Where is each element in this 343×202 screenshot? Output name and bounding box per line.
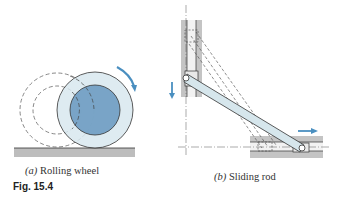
ground (14, 148, 135, 157)
caption-b-letter: (b) (214, 171, 226, 182)
caption-sliding-rod: (b) Sliding rod (214, 171, 276, 182)
sliding-rod-panel (169, 5, 330, 158)
sliding-rod (184, 74, 304, 152)
upper-pin (183, 75, 189, 81)
down-arrow-icon (169, 93, 175, 99)
rotation-arrowhead-icon (131, 85, 137, 92)
figure-label: Fig. 15.4 (13, 181, 53, 192)
right-arrow-icon (311, 128, 318, 134)
lower-pin (299, 145, 305, 151)
caption-a-title: Rolling wheel (40, 165, 99, 176)
wheel-hub (70, 85, 120, 135)
caption-b-title: Sliding rod (229, 171, 276, 182)
caption-a-letter: (a) (25, 165, 37, 176)
rolling-wheel-panel (14, 67, 137, 157)
caption-rolling-wheel: (a) Rolling wheel (25, 165, 99, 176)
